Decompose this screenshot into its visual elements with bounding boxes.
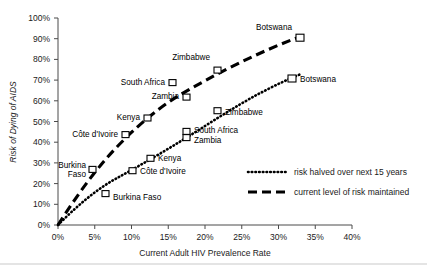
point-label-dotted-botswana: Botswana (300, 75, 336, 84)
point-label-dashed-zambia: Zambia (152, 92, 180, 101)
y-tick-label-40: 40% (33, 137, 50, 147)
data-point-dashed-south-africa (169, 80, 176, 86)
point-label-dashed-botswana: Botswana (256, 23, 292, 32)
x-tick-label-20: 20% (196, 232, 213, 242)
point-label-dashed-cote-divoire: Côte d'Ivoire (72, 130, 118, 139)
y-tick-label-80: 80% (33, 54, 50, 64)
x-tick-label-10: 10% (123, 232, 140, 242)
y-tick-label-10: 10% (33, 199, 50, 209)
data-point-dotted-kenya (147, 155, 154, 161)
y-tick-label-30: 30% (33, 158, 50, 168)
y-tick-label-90: 90% (33, 34, 50, 44)
data-point-dotted-cote-divoire (129, 168, 136, 174)
y-tick-label-20: 20% (33, 179, 50, 189)
legend-label-dotted: risk halved over next 15 years (294, 167, 407, 177)
y-tick-label-100: 100% (28, 13, 50, 23)
point-label-dashed-burkina-line1: Burkina (58, 161, 86, 170)
y-tick-label-70: 70% (33, 75, 50, 85)
data-point-dotted-south-africa (183, 128, 190, 134)
point-label-dotted-zimbabwe: Zimbabwe (225, 108, 263, 117)
x-axis-title: Current Adult HIV Prevalence Rate (139, 248, 271, 258)
legend-item-dotted[interactable]: risk halved over next 15 years (248, 167, 407, 177)
y-axis-title: Risk of Dying of AIDS (8, 81, 18, 163)
x-tick-label-0: 0% (52, 232, 65, 242)
x-tick-label-30: 30% (270, 232, 287, 242)
point-label-dashed-kenya: Kenya (117, 113, 141, 122)
point-label-dashed-burkina-line2: Faso (68, 170, 87, 179)
legend-label-dashed: current level of risk maintained (294, 187, 410, 197)
y-tick-label-0: 0% (38, 220, 51, 230)
data-point-dashed-zambia (183, 94, 190, 100)
data-point-dashed-zimbabwe (214, 67, 221, 73)
point-label-dashed-zimbabwe: Zimbabwe (172, 53, 210, 62)
chart-legend: risk halved over next 15 years current l… (248, 167, 410, 197)
y-tick-label-50: 50% (33, 117, 50, 127)
x-axis (58, 225, 352, 229)
x-tick-label-15: 15% (160, 232, 177, 242)
data-point-dotted-burkina-faso (102, 191, 109, 197)
point-label-dotted-south-africa: South Africa (194, 126, 239, 135)
data-point-dotted-botswana (288, 75, 296, 82)
point-label-dotted-zambia: Zambia (194, 136, 222, 145)
y-axis (54, 18, 58, 225)
series-line-dotted (58, 74, 301, 225)
y-tick-label-60: 60% (33, 96, 50, 106)
x-tick-label-40: 40% (343, 232, 360, 242)
data-point-dashed-cote-divoire (122, 132, 129, 138)
point-label-dashed-south-africa: South Africa (121, 78, 166, 87)
aids-risk-scatter-chart: 100% 90% 80% 70% 60% 50% 40% 30% 20% 10%… (0, 0, 427, 266)
legend-item-dashed[interactable]: current level of risk maintained (248, 187, 410, 197)
data-point-dashed-burkina-faso (89, 166, 96, 172)
point-label-dotted-kenya: Kenya (158, 154, 182, 163)
point-label-dotted-cote-divoire: Côte d'Ivoire (140, 167, 186, 176)
point-label-dotted-burkina-faso: Burkina Faso (113, 193, 162, 202)
x-tick-label-35: 35% (307, 232, 324, 242)
x-tick-label-5: 5% (89, 232, 102, 242)
data-point-dotted-zimbabwe (214, 108, 221, 114)
data-point-dashed-kenya (144, 115, 151, 121)
data-point-dotted-zambia (183, 135, 190, 141)
x-tick-label-25: 25% (233, 232, 250, 242)
data-point-dashed-botswana (296, 34, 304, 41)
chart-canvas: 100% 90% 80% 70% 60% 50% 40% 30% 20% 10%… (0, 0, 427, 266)
